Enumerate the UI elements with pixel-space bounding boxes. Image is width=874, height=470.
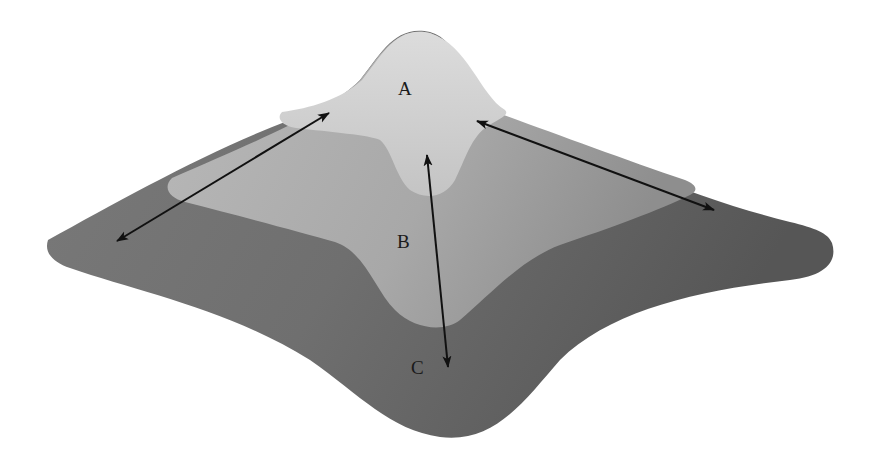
- label-b: B: [397, 231, 410, 252]
- label-a: A: [398, 78, 412, 99]
- label-c: C: [411, 357, 424, 378]
- surface-diagram: A B C: [0, 0, 874, 470]
